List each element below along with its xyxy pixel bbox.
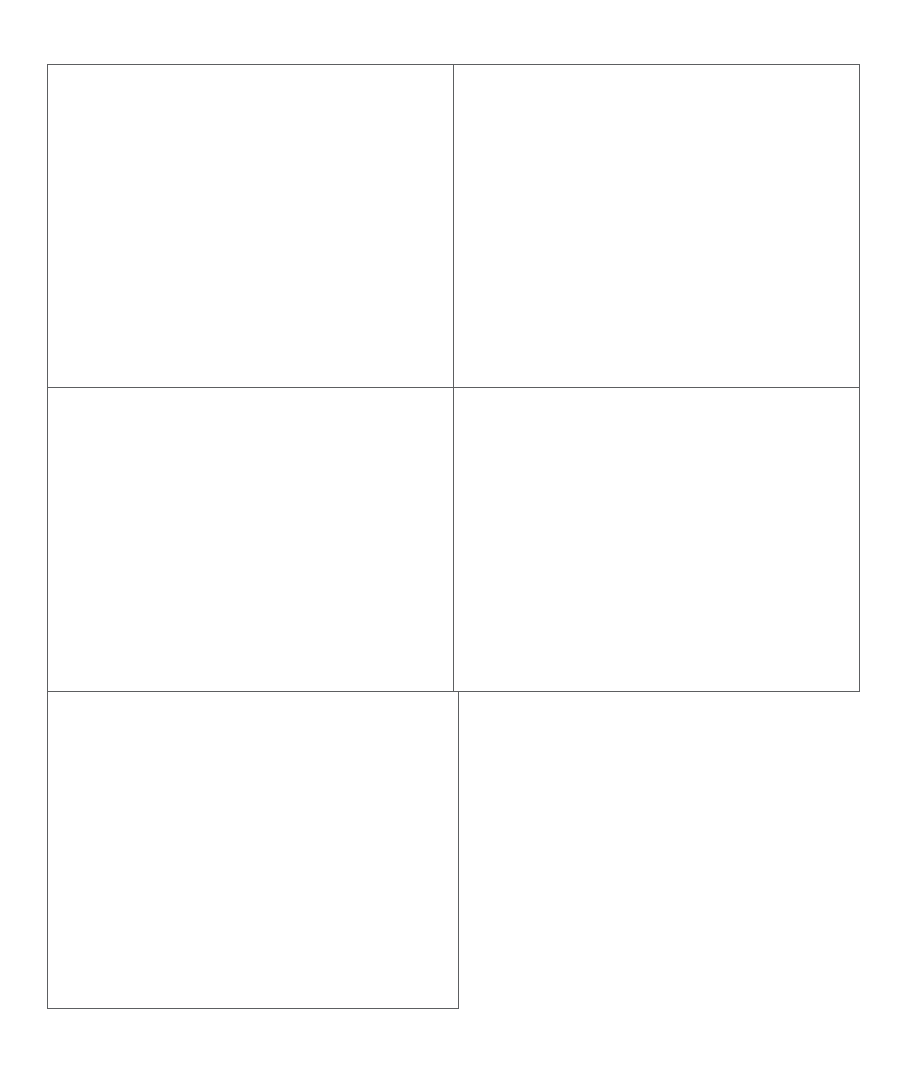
chart-d xyxy=(454,388,859,691)
panel-d xyxy=(453,387,860,692)
panel-c xyxy=(47,387,454,692)
chart-b xyxy=(454,65,859,387)
figure-root xyxy=(0,0,902,1083)
chart-e xyxy=(48,692,458,1008)
chart-c xyxy=(48,388,453,691)
panel-grid xyxy=(47,64,860,1009)
panel-e xyxy=(47,691,459,1009)
panel-a xyxy=(47,64,454,388)
chart-a xyxy=(48,65,453,387)
panel-b xyxy=(453,64,860,388)
